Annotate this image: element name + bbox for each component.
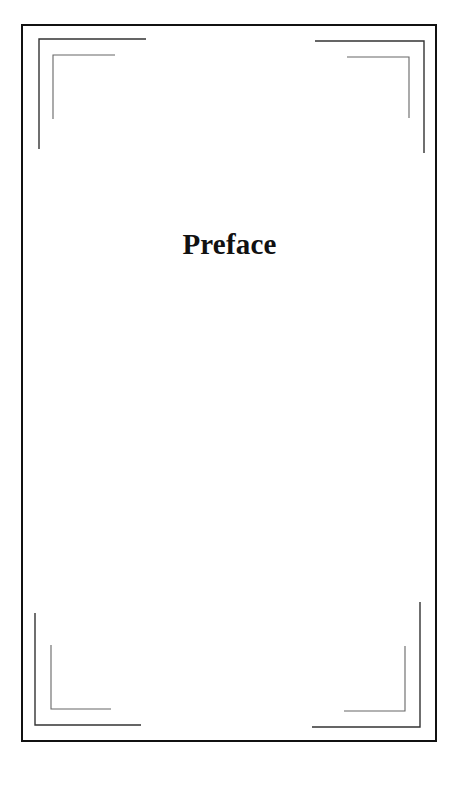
- bottom-right-corner-ornament: [312, 602, 420, 727]
- preface-page: Preface: [0, 0, 459, 800]
- bottom-left-corner-ornament: [35, 613, 141, 725]
- corner-ornaments: [0, 0, 459, 800]
- top-right-corner-ornament: [315, 41, 424, 153]
- page-title: Preface: [0, 228, 459, 261]
- top-left-corner-ornament: [39, 39, 146, 149]
